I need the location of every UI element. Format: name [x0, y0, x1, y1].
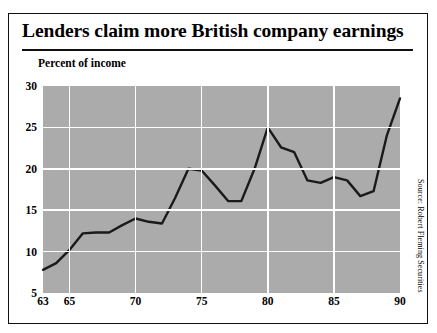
gridline-horizontal: [43, 209, 400, 211]
gridline-vertical: [267, 86, 269, 293]
x-tick-label: 85: [328, 295, 340, 307]
x-axis-ticks: 63657075808590: [43, 295, 400, 311]
data-line-series: [43, 86, 400, 293]
plot-area: [43, 86, 400, 293]
x-tick-label: 70: [130, 295, 142, 307]
gridline-horizontal: [43, 251, 400, 253]
y-axis-ticks: 51015202530: [0, 86, 41, 293]
y-tick-label: 15: [26, 204, 38, 216]
chart-figure: Lenders claim more British company earni…: [0, 0, 437, 333]
gridline-vertical: [333, 86, 335, 293]
chart-title: Lenders claim more British company earni…: [22, 20, 414, 42]
x-tick-label: 63: [37, 295, 49, 307]
gridline-horizontal: [43, 168, 400, 170]
series-line: [43, 98, 400, 269]
gridline-vertical: [135, 86, 137, 293]
gridline-vertical: [69, 86, 71, 293]
x-tick-label: 65: [64, 295, 76, 307]
gridline-vertical: [201, 86, 203, 293]
x-tick-label: 90: [394, 295, 406, 307]
title-divider: [22, 49, 413, 51]
x-tick-label: 75: [196, 295, 208, 307]
y-tick-label: 25: [26, 121, 38, 133]
source-label: Source: Robert Fleming Securities: [416, 179, 425, 293]
y-tick-label: 20: [26, 163, 38, 175]
y-tick-label: 10: [26, 246, 38, 258]
gridline-horizontal: [43, 127, 400, 129]
source-attribution: Source: Robert Fleming Securities: [413, 86, 427, 293]
chart-subtitle: Percent of income: [38, 57, 126, 69]
x-tick-label: 80: [262, 295, 274, 307]
y-tick-label: 5: [31, 287, 37, 299]
y-tick-label: 30: [26, 80, 38, 92]
